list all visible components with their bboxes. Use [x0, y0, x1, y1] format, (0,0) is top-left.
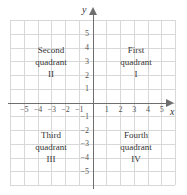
x-tick-5: 5 [156, 106, 168, 114]
quadrant-third-numeral: III [16, 153, 86, 165]
x-axis-line [8, 103, 168, 104]
quadrant-third-line2: quadrant [16, 141, 86, 153]
x-axis-label: x [170, 107, 174, 117]
x-tick-4: 4 [142, 106, 154, 114]
x-tick-−3: −3 [46, 106, 58, 114]
x-tick-3: 3 [128, 106, 140, 114]
quadrant-label-first: First quadrant I [101, 44, 171, 80]
quadrant-fourth-line2: quadrant [101, 141, 171, 153]
quadrant-label-third: Third quadrant III [16, 129, 86, 165]
y-axis-arrowhead-icon [89, 7, 97, 15]
x-tick-−4: −4 [32, 106, 44, 114]
x-tick-−5: −5 [18, 106, 30, 114]
quadrant-first-numeral: I [101, 68, 171, 80]
x-tick-−2: −2 [60, 106, 72, 114]
quadrant-first-line1: First [101, 44, 171, 56]
quadrant-second-line2: quadrant [16, 56, 86, 68]
gridline-vertical [175, 20, 176, 185]
y-tick-5: 5 [77, 30, 89, 38]
quadrant-second-line1: Second [16, 44, 86, 56]
y-axis-line [93, 14, 94, 189]
y-tick-1: 1 [77, 85, 89, 93]
x-tick-1: 1 [101, 106, 113, 114]
y-tick-−1: −1 [77, 113, 89, 121]
quadrant-fourth-line1: Fourth [101, 129, 171, 141]
y-axis-label: y [82, 5, 86, 15]
quadrant-fourth-numeral: IV [101, 153, 171, 165]
quadrant-label-second: Second quadrant II [16, 44, 86, 80]
quadrant-third-line1: Third [16, 129, 86, 141]
y-tick-−5: −5 [77, 168, 89, 176]
x-tick-2: 2 [115, 106, 127, 114]
quadrant-label-fourth: Fourth quadrant IV [101, 129, 171, 165]
coordinate-plane-figure: x y −5−4−3−2−11234554321−1−2−3−4−5 Secon… [0, 0, 187, 195]
quadrant-second-numeral: II [16, 68, 86, 80]
quadrant-first-line2: quadrant [101, 56, 171, 68]
